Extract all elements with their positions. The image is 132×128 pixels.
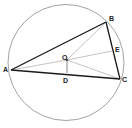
segment-oa <box>11 60 67 70</box>
segment-ab <box>11 22 106 70</box>
segment-ob <box>67 22 106 60</box>
segment-oc <box>67 60 120 79</box>
label-a: A <box>3 66 8 73</box>
label-o: O <box>62 54 67 61</box>
label-e: E <box>115 46 120 53</box>
label-b: B <box>109 15 114 22</box>
label-d: D <box>63 77 68 84</box>
label-c: C <box>122 76 127 83</box>
segment-oe <box>67 51 112 60</box>
geometry-diagram: A B E C O D <box>0 0 132 128</box>
